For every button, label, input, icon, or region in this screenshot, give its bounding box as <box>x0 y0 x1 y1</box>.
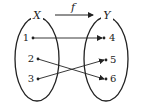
mapping-diagram: X Y f 1 2 3 4 5 6 <box>0 0 141 109</box>
domain-element-1: 1 <box>23 32 29 43</box>
domain-element-3: 3 <box>28 73 34 84</box>
function-label: f <box>70 1 77 14</box>
domain-element-2: 2 <box>28 53 34 64</box>
codomain-element-4: 4 <box>109 32 115 43</box>
domain-label: X <box>32 9 42 22</box>
codomain-point-5 <box>105 59 108 62</box>
codomain-point-6 <box>105 78 108 81</box>
codomain-element-6: 6 <box>110 73 116 84</box>
codomain-element-5: 5 <box>110 54 116 65</box>
codomain-point-4 <box>103 37 106 40</box>
